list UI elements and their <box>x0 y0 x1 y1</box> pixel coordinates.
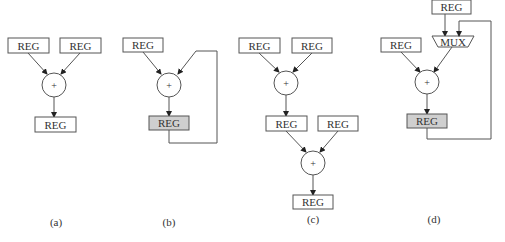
svg-text:REG: REG <box>301 40 323 52</box>
svg-text:+: + <box>424 77 430 88</box>
reg-a-input-left: REG <box>8 38 49 53</box>
reg-d-left: REG <box>381 38 421 52</box>
caption-d: (d) <box>428 213 441 226</box>
svg-text:REG: REG <box>441 1 463 13</box>
svg-text:REG: REG <box>302 196 324 208</box>
adder-a: + <box>42 73 66 97</box>
wire-b-feedback-in <box>178 51 196 74</box>
wire-b-1 <box>143 52 161 74</box>
wire-a-2 <box>61 53 80 74</box>
wire-a-1 <box>28 53 47 74</box>
reg-c-input-1: REG <box>239 38 280 53</box>
reg-c-output: REG <box>293 195 333 209</box>
panel-d: REG MUX REG + REG (d) <box>381 0 491 226</box>
reg-c-input-3: REG <box>318 116 358 131</box>
wire-d-1 <box>401 52 420 72</box>
svg-text:REG: REG <box>416 115 438 127</box>
svg-text:REG: REG <box>18 40 40 52</box>
reg-c-intermediate: REG <box>266 116 307 131</box>
wire-c-2 <box>293 53 312 72</box>
adder-d: + <box>415 70 439 94</box>
reg-b-input: REG <box>123 38 163 52</box>
caption-c: (c) <box>307 213 320 226</box>
svg-text:REG: REG <box>45 119 67 131</box>
mux-d: MUX <box>432 36 474 48</box>
svg-text:REG: REG <box>132 39 154 51</box>
datapath-figure: REG REG + REG (a) REG + <box>0 0 505 242</box>
reg-a-input-right: REG <box>60 38 101 53</box>
panel-a: REG REG + REG (a) <box>8 38 101 229</box>
adder-c-1: + <box>274 71 298 95</box>
svg-text:REG: REG <box>390 39 412 51</box>
wire-c-1 <box>259 53 279 72</box>
adder-b: + <box>157 73 181 97</box>
svg-text:REG: REG <box>158 117 180 129</box>
adder-c-2: + <box>301 151 325 175</box>
panel-c: REG REG + REG REG + REG <box>239 38 358 226</box>
svg-text:REG: REG <box>249 40 271 52</box>
svg-text:+: + <box>166 80 172 91</box>
svg-text:REG: REG <box>70 40 92 52</box>
svg-text:+: + <box>310 158 316 169</box>
reg-d-accumulator: REG <box>407 114 447 128</box>
reg-a-output: REG <box>35 117 76 132</box>
svg-text:+: + <box>51 80 57 91</box>
wire-c-5 <box>320 131 338 152</box>
reg-c-input-2: REG <box>292 38 332 53</box>
caption-b: (b) <box>163 216 176 229</box>
panel-b: REG + REG (b) <box>123 38 217 229</box>
reg-b-accumulator: REG <box>149 116 189 130</box>
svg-text:MUX: MUX <box>440 36 466 48</box>
wire-d-2 <box>434 47 452 72</box>
svg-text:REG: REG <box>276 118 298 130</box>
caption-a: (a) <box>50 216 63 229</box>
reg-d-top: REG <box>432 0 471 14</box>
wire-c-4 <box>286 131 306 152</box>
svg-text:+: + <box>283 78 289 89</box>
svg-text:REG: REG <box>327 118 349 130</box>
